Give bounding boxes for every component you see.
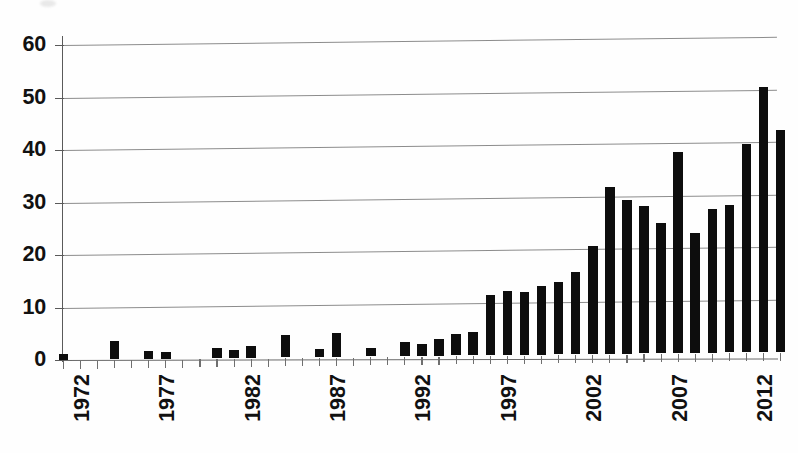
x-tick-label-2012: 2012 [755, 374, 777, 422]
x-tick-2007 [661, 354, 662, 362]
x-tick-1996 [473, 356, 474, 364]
bar-2000 [537, 286, 547, 354]
x-tick-1976 [131, 360, 132, 368]
gridline-50 [62, 89, 777, 98]
bar-1996 [468, 332, 478, 356]
y-tick-label-40: 40 [2, 139, 46, 161]
bar-2007 [656, 223, 666, 353]
bar-1992 [400, 342, 410, 356]
x-tick-2000 [541, 356, 542, 364]
y-tick-30 [55, 203, 64, 204]
x-tick-2008 [678, 354, 679, 362]
x-tick-1986 [302, 358, 303, 366]
x-tick-label-1987: 1987 [328, 374, 350, 422]
bar-2002 [571, 272, 581, 354]
bar-1988 [332, 333, 342, 357]
bar-2012 [742, 144, 752, 352]
x-tick-1972 [63, 361, 64, 369]
y-tick-10 [55, 308, 64, 309]
y-tick-50 [55, 98, 64, 99]
x-tick-1999 [524, 356, 525, 364]
y-tick-label-0: 0 [2, 349, 46, 371]
bar-1997 [486, 295, 496, 355]
y-tick-40 [55, 150, 64, 151]
x-tick-1977 [148, 360, 149, 368]
bar-1977 [144, 351, 154, 359]
x-tick-1993 [421, 357, 422, 365]
x-tick-1990 [370, 357, 371, 365]
x-tick-2003 [592, 355, 593, 363]
y-tick-label-10: 10 [2, 297, 46, 319]
x-tick-2004 [609, 355, 610, 363]
x-tick-1978 [165, 360, 166, 368]
x-tick-1997 [490, 356, 491, 364]
x-tick-2006 [643, 354, 644, 362]
x-tick-2014 [780, 353, 781, 361]
bar-1995 [451, 334, 461, 356]
x-tick-1984 [268, 359, 269, 367]
bar-2006 [639, 206, 649, 353]
gridline-10 [62, 299, 777, 308]
gridline-60 [62, 37, 777, 46]
x-tick-1992 [404, 357, 405, 365]
x-tick-1994 [438, 357, 439, 365]
x-tick-1981 [216, 359, 217, 367]
x-tick-1974 [97, 361, 98, 369]
y-tick-label-50: 50 [2, 87, 46, 109]
bar-1978 [161, 352, 171, 359]
x-tick-1995 [456, 356, 457, 364]
bar-2005 [622, 200, 632, 354]
chart-figure: 0102030405060 19721977198219871992199720… [0, 0, 798, 453]
x-tick-2002 [575, 355, 576, 363]
bar-2010 [708, 209, 718, 352]
bar-2009 [690, 233, 700, 353]
x-tick-1973 [80, 361, 81, 369]
x-tick-label-1977: 1977 [157, 374, 179, 422]
x-tick-2009 [695, 354, 696, 362]
x-tick-2005 [626, 355, 627, 363]
y-axis-line [62, 36, 63, 362]
x-tick-1979 [182, 360, 183, 368]
y-tick-60 [55, 45, 64, 46]
x-tick-2013 [763, 353, 764, 361]
x-tick-1985 [285, 358, 286, 366]
bar-1981 [212, 348, 222, 358]
bar-1994 [434, 339, 444, 356]
bar-2011 [725, 205, 735, 353]
x-tick-label-1972: 1972 [72, 374, 94, 422]
bar-1972 [59, 354, 69, 360]
y-tick-label-60: 60 [2, 34, 46, 56]
y-tick-label-20: 20 [2, 244, 46, 266]
bar-1985 [281, 335, 291, 357]
x-tick-1982 [234, 359, 235, 367]
plot-area: 0102030405060 19721977198219871992199720… [0, 0, 798, 453]
bar-1990 [366, 348, 376, 356]
x-tick-label-1982: 1982 [243, 374, 265, 422]
x-tick-2001 [558, 355, 559, 363]
x-tick-1989 [353, 358, 354, 366]
bar-1983 [246, 346, 256, 358]
x-tick-label-1997: 1997 [499, 374, 521, 422]
gridline-30 [62, 194, 777, 203]
bar-2014 [776, 130, 786, 352]
x-tick-label-2007: 2007 [670, 374, 692, 422]
x-tick-2010 [712, 354, 713, 362]
bar-1982 [229, 350, 239, 358]
bar-1993 [417, 344, 427, 356]
x-tick-1980 [199, 359, 200, 367]
bar-2003 [588, 246, 598, 354]
bar-2013 [759, 87, 769, 352]
x-tick-1975 [114, 360, 115, 368]
x-tick-1987 [319, 358, 320, 366]
bar-1999 [520, 292, 530, 354]
y-tick-20 [55, 255, 64, 256]
x-tick-2012 [746, 353, 747, 361]
x-tick-1998 [507, 356, 508, 364]
bar-2001 [554, 282, 564, 354]
gridline-20 [62, 247, 777, 256]
x-tick-label-2002: 2002 [584, 374, 606, 422]
bar-2008 [673, 152, 683, 353]
x-tick-label-1992: 1992 [413, 374, 435, 422]
x-tick-1991 [387, 357, 388, 365]
bar-1987 [315, 349, 325, 357]
